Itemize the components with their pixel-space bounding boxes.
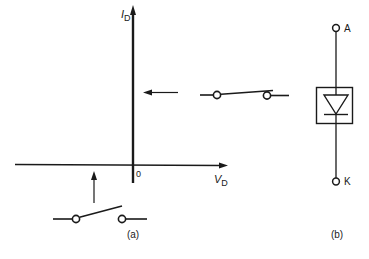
device-box [317,88,353,124]
caption-a: (a) [127,229,139,240]
switch-terminal-icon [263,92,270,99]
caption-b: (b) [331,229,343,240]
figure-b [317,25,353,185]
cathode-label: K [344,176,351,187]
figure-a: ID VD 0 (a) [15,5,289,240]
x-axis [15,165,222,166]
x-axis-arrowhead-icon [219,163,228,169]
arrow-up-icon [91,171,97,180]
closed-switch [200,91,289,100]
y-axis-label: ID [121,8,131,23]
anode-label: A [344,23,351,34]
anode-terminal-icon [333,25,340,32]
arrow-left-icon [143,90,152,96]
switch-terminal-icon [213,91,220,98]
cathode-terminal-icon [333,178,340,185]
switch-terminal-icon [72,215,79,222]
x-axis-label: VD [214,173,228,188]
ideal-diode-diagram: ID VD 0 (a) [0,0,369,259]
y-axis-arrowhead-icon [130,5,136,15]
origin-label: 0 [136,169,141,179]
switch-terminal-icon [118,215,125,222]
open-switch [53,206,147,223]
diode-triangle-icon [324,95,348,114]
